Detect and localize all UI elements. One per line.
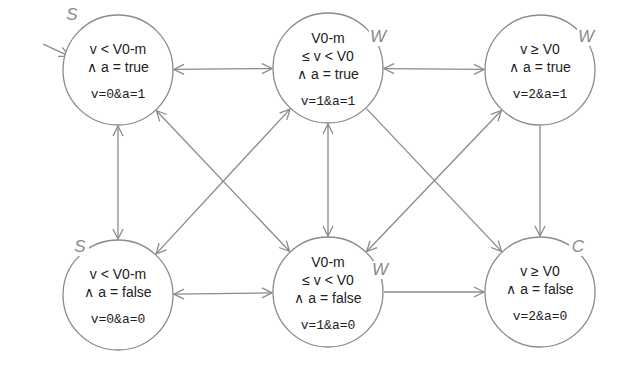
state-encoding: v=2&a=1 <box>513 87 568 102</box>
state-condition-line: ∧ a = false <box>294 290 361 306</box>
state-condition-line: ∧ a = true <box>509 59 571 75</box>
state-condition-line: ≤ v < V0 <box>302 272 354 288</box>
state-node-s11: WV0-m≤ v < V0∧ a = falsev=1&a=0 <box>273 237 390 347</box>
transition-s01-to-s11 <box>174 293 272 294</box>
state-encoding: v=1&a=1 <box>301 94 356 109</box>
state-tag: W <box>578 27 596 46</box>
state-condition-line: v < V0-m <box>90 266 146 282</box>
state-condition-line: V0-m <box>311 30 344 46</box>
state-diagram: Sv < V0-m∧ a = truev=0&a=1WV0-m≤ v < V0∧… <box>0 0 626 373</box>
state-condition-line: v < V0-m <box>90 41 146 57</box>
state-encoding: v=0&a=0 <box>91 312 146 327</box>
state-condition-line: V0-m <box>311 254 344 270</box>
state-encoding: v=0&a=1 <box>91 87 146 102</box>
state-node-s10: WV0-m≤ v < V0∧ a = truev=1&a=1 <box>273 13 388 123</box>
state-encoding: v=2&a=0 <box>513 309 568 324</box>
state-tag: C <box>572 237 585 256</box>
states: Sv < V0-m∧ a = truev=0&a=1WV0-m≤ v < V0∧… <box>63 5 596 350</box>
state-condition-line: ∧ a = false <box>84 284 151 300</box>
state-condition-line: v ≥ V0 <box>520 263 560 279</box>
state-tag: W <box>372 260 390 279</box>
state-encoding: v=1&a=0 <box>301 318 356 333</box>
transition-s10-to-s20 <box>384 69 484 70</box>
state-tag: S <box>74 237 86 256</box>
state-condition-line: ∧ a = true <box>297 66 359 82</box>
state-condition-line: ∧ a = false <box>506 281 573 297</box>
state-condition-line: v ≥ V0 <box>520 41 560 57</box>
state-node-s20: Wv ≥ V0∧ a = truev=2&a=1 <box>485 15 596 125</box>
transition-s00-to-s10 <box>174 69 272 70</box>
state-tag: W <box>370 27 388 46</box>
state-node-s21: Cv ≥ V0∧ a = falsev=2&a=0 <box>485 237 595 347</box>
state-tag: S <box>66 5 78 24</box>
state-condition-line: ≤ v < V0 <box>302 48 354 64</box>
state-condition-line: ∧ a = true <box>87 59 149 75</box>
state-node-s00: Sv < V0-m∧ a = truev=0&a=1 <box>63 5 173 125</box>
